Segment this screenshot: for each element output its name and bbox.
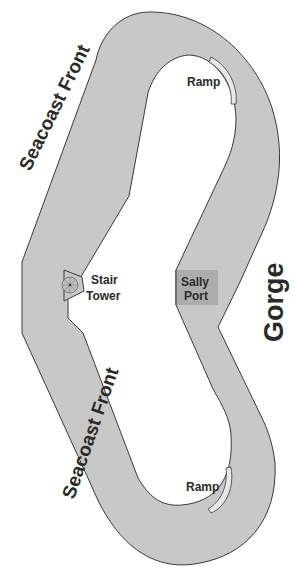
fort-plan-map: Seacoast Front Seacoast Front Gorge Stai… [0,0,294,577]
spiral-stair-icon [62,277,78,293]
gorge-label: Gorge [259,262,289,342]
stair-tower-label-line1: Stair [91,273,118,287]
sally-port-label-line1: Sally [181,275,209,289]
ramp-lower-label: Ramp [186,480,219,494]
sally-port-label-line2: Port [184,289,208,303]
stair-tower-label-line2: Tower [86,289,121,303]
ramp-upper-label: Ramp [187,75,220,89]
